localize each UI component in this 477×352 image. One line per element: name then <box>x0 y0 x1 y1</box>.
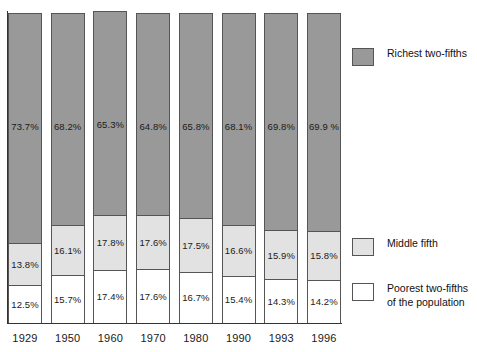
bar-segment-rich: 69.8% <box>264 13 298 231</box>
bar-segment-poor: 12.5% <box>8 285 42 324</box>
bar-segment-middle: 17.8% <box>93 215 127 271</box>
bar-segment-rich: 65.8% <box>179 13 213 219</box>
bar-segment-value-label: 12.5% <box>11 300 38 310</box>
x-axis-label-1929: 1929 <box>8 331 42 345</box>
bar-segment-value-label: 17.4% <box>97 292 124 302</box>
x-axis-label-1993: 1993 <box>264 331 298 345</box>
legend-swatch-icon <box>352 48 374 66</box>
stacked-bar-chart: 73.7%13.8%12.5%68.2%16.1%15.7%65.3%17.8%… <box>0 0 477 352</box>
bar-segment-rich: 65.3% <box>93 11 127 215</box>
x-axis-label-1980: 1980 <box>179 331 213 345</box>
bar-segment-poor: 15.4% <box>222 276 256 324</box>
bar-group: 73.7%13.8%12.5% <box>8 11 42 324</box>
bar-segment-poor: 14.2% <box>307 280 341 324</box>
bar-segment-rich: 68.2% <box>51 13 85 226</box>
bar-group: 69.9 %15.8%14.2% <box>307 11 341 324</box>
bar-segment-rich: 68.1% <box>222 13 256 226</box>
x-axis-label-1970: 1970 <box>136 331 170 345</box>
bar-segment-rich: 73.7% <box>8 13 42 244</box>
bar-segment-middle: 15.9% <box>264 230 298 280</box>
bar-segment-value-label: 64.8% <box>139 122 166 132</box>
bar-segment-value-label: 16.6% <box>225 246 252 256</box>
bar-segment-value-label: 17.5% <box>182 241 209 251</box>
bar-segment-value-label: 14.3% <box>268 297 295 307</box>
bar-segment-middle: 13.8% <box>8 243 42 286</box>
bar-segment-value-label: 16.1% <box>54 246 81 256</box>
x-axis-label-1990: 1990 <box>222 331 256 345</box>
bar-segment-value-label: 65.8% <box>182 122 209 132</box>
bar-segment-value-label: 13.8% <box>11 260 38 270</box>
legend-label: Poorest two-fifthsof the population <box>387 282 468 309</box>
bar-group: 68.1%16.6%15.4% <box>222 11 256 324</box>
bar-segment-value-label: 17.8% <box>97 238 124 248</box>
bar-segment-middle: 16.6% <box>222 225 256 277</box>
bar-segment-value-label: 14.2% <box>310 297 337 307</box>
bar-segment-poor: 17.4% <box>93 270 127 324</box>
bar-segment-value-label: 68.1% <box>225 122 252 132</box>
legend-label: Richest two-fifths <box>387 47 467 61</box>
bar-segment-value-label: 69.9 % <box>309 122 339 132</box>
plot-area: 73.7%13.8%12.5%68.2%16.1%15.7%65.3%17.8%… <box>8 11 341 324</box>
bar-group: 65.8%17.5%16.7% <box>179 11 213 324</box>
bar-segment-value-label: 15.9% <box>268 251 295 261</box>
bar-segment-middle: 17.5% <box>179 218 213 273</box>
bar-segment-poor: 17.6% <box>136 269 170 324</box>
bar-segment-value-label: 15.7% <box>54 295 81 305</box>
bar-segment-value-label: 17.6% <box>139 292 166 302</box>
legend-item-poor[interactable]: Poorest two-fifthsof the population <box>352 282 468 309</box>
bar-segment-value-label: 73.7% <box>11 122 38 132</box>
bar-segment-value-label: 15.8% <box>310 251 337 261</box>
legend-swatch-icon <box>352 283 374 301</box>
bar-group: 68.2%16.1%15.7% <box>51 11 85 324</box>
bar-segment-rich: 64.8% <box>136 13 170 216</box>
bar-segment-value-label: 69.8% <box>268 122 295 132</box>
bar-segment-middle: 17.6% <box>136 215 170 270</box>
bar-segment-poor: 16.7% <box>179 272 213 324</box>
bar-group: 69.8%15.9%14.3% <box>264 11 298 324</box>
bar-segment-rich: 69.9 % <box>307 13 341 232</box>
bar-segment-value-label: 16.7% <box>182 293 209 303</box>
bar-group: 65.3%17.8%17.4% <box>93 11 127 324</box>
legend-swatch-icon <box>352 238 374 256</box>
x-axis-line <box>8 323 342 324</box>
x-axis-tick-labels: 19291950196019701980199019931996 <box>8 331 341 349</box>
x-axis-label-1960: 1960 <box>93 331 127 345</box>
bar-segment-poor: 15.7% <box>51 275 85 324</box>
legend-label: Middle fifth <box>387 237 438 251</box>
chart-legend: Richest two-fifthsMiddle fifthPoorest tw… <box>352 0 477 352</box>
bar-segment-value-label: 17.6% <box>139 238 166 248</box>
bar-segment-value-label: 15.4% <box>225 295 252 305</box>
bar-group: 64.8%17.6%17.6% <box>136 11 170 324</box>
legend-item-rich[interactable]: Richest two-fifths <box>352 47 467 66</box>
bar-segment-middle: 16.1% <box>51 225 85 275</box>
legend-item-middle[interactable]: Middle fifth <box>352 237 438 256</box>
y-axis-line <box>7 11 8 324</box>
bar-segment-poor: 14.3% <box>264 279 298 324</box>
bar-segment-value-label: 65.3% <box>97 120 124 130</box>
x-axis-label-1950: 1950 <box>51 331 85 345</box>
bar-segment-value-label: 68.2% <box>54 122 81 132</box>
legend-label-line2: of the population <box>387 296 468 310</box>
bar-segment-middle: 15.8% <box>307 231 341 280</box>
x-axis-label-1996: 1996 <box>307 331 341 345</box>
